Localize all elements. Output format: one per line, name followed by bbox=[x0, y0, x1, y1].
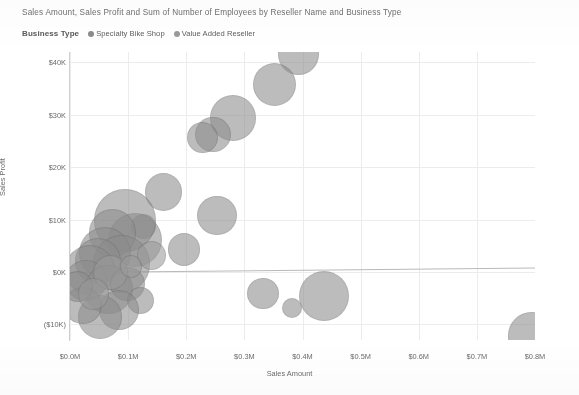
legend-swatch-icon bbox=[88, 31, 94, 37]
y-axis-ticks: $40K$30K$20K$10K$0K($10K) bbox=[18, 52, 66, 340]
x-tick-label: $0.0M bbox=[60, 352, 81, 361]
legend-item-specialty-bike-shop[interactable]: Specialty Bike Shop bbox=[88, 29, 165, 38]
x-tick-label: $0.8M bbox=[525, 352, 546, 361]
gridline-vertical bbox=[477, 52, 478, 340]
legend-swatch-icon bbox=[174, 31, 180, 37]
x-axis-ticks: $0.0M$0.1M$0.2M$0.3M$0.4M$0.5M$0.6M$0.7M… bbox=[70, 352, 535, 366]
scatter-bubble[interactable] bbox=[197, 196, 237, 236]
scatter-bubble[interactable] bbox=[168, 233, 200, 265]
legend-item-label: Specialty Bike Shop bbox=[96, 29, 165, 38]
y-tick-label: $20K bbox=[49, 163, 66, 172]
gridline-vertical bbox=[361, 52, 362, 340]
x-tick-label: $0.4M bbox=[292, 352, 313, 361]
gridline-vertical bbox=[419, 52, 420, 340]
scatter-bubble[interactable] bbox=[120, 255, 143, 278]
x-axis-label: Sales Amount bbox=[0, 369, 579, 378]
legend: Business Type Specialty Bike Shop Value … bbox=[22, 29, 255, 38]
x-tick-label: $0.7M bbox=[467, 352, 488, 361]
gridline-vertical bbox=[244, 52, 245, 340]
x-tick-label: $0.6M bbox=[408, 352, 429, 361]
legend-item-label: Value Added Reseller bbox=[182, 29, 255, 38]
y-tick-label: $30K bbox=[49, 110, 66, 119]
y-axis-label: Sales Profit bbox=[0, 158, 7, 196]
y-tick-label: $40K bbox=[49, 58, 66, 67]
x-tick-label: $0.3M bbox=[234, 352, 255, 361]
legend-title: Business Type bbox=[22, 29, 79, 38]
scatter-bubble[interactable] bbox=[78, 278, 109, 309]
legend-item-value-added-reseller[interactable]: Value Added Reseller bbox=[174, 29, 255, 38]
scatter-bubble[interactable] bbox=[247, 278, 278, 309]
page-title: Sales Amount, Sales Profit and Sum of Nu… bbox=[22, 8, 402, 17]
x-tick-label: $0.1M bbox=[118, 352, 139, 361]
x-tick-label: $0.5M bbox=[350, 352, 371, 361]
y-tick-label: $0K bbox=[53, 267, 66, 276]
gridline-vertical bbox=[186, 52, 187, 340]
scatter-bubble[interactable] bbox=[299, 271, 349, 321]
x-tick-label: $0.2M bbox=[176, 352, 197, 361]
y-tick-label: $10K bbox=[49, 215, 66, 224]
plot-area[interactable] bbox=[70, 52, 535, 340]
y-tick-label: ($10K) bbox=[44, 320, 66, 329]
